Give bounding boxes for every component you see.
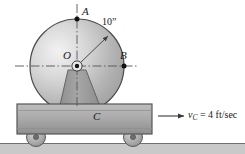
point-a-label: A xyxy=(82,6,89,17)
center-o-label: O xyxy=(63,50,71,61)
velocity-label: vC = 4 ft/sec xyxy=(188,110,237,122)
radius-dimension-label: 10” xyxy=(102,17,116,27)
dynamics-figure: A B O C 10” vC = 4 ft/sec xyxy=(0,0,245,154)
point-a-marker xyxy=(75,17,80,22)
point-b-marker xyxy=(122,64,127,69)
cart-c-label: C xyxy=(93,111,100,122)
velocity-value: = 4 ft/sec xyxy=(197,109,237,120)
hub-marker xyxy=(72,61,82,71)
point-b-label: B xyxy=(120,50,127,61)
cart-body xyxy=(17,104,152,134)
figure-graphics xyxy=(0,0,245,154)
